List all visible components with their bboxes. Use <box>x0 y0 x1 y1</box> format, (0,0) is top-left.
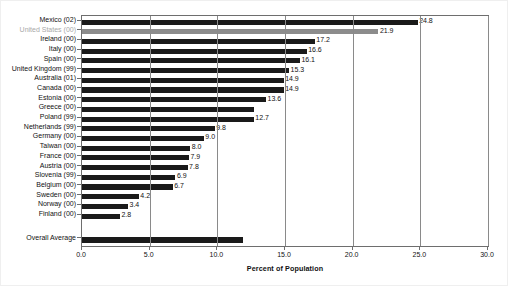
bar <box>82 184 173 189</box>
gridline <box>488 16 489 246</box>
category-label: Spain (00) <box>44 54 76 64</box>
category-label: Norway (00) <box>38 199 76 209</box>
bar-value-label: 7.9 <box>189 152 200 161</box>
bar <box>82 155 189 160</box>
gridline <box>217 16 218 246</box>
bar <box>82 214 120 219</box>
bar-value-label: 7.8 <box>188 162 199 171</box>
category-label: Mexico (02) <box>39 15 76 25</box>
bar-chart: Mexico (02)United States (00)Ireland (00… <box>0 0 508 286</box>
x-tick-label: 5.0 <box>144 250 154 260</box>
category-label: Canada (00) <box>37 83 76 93</box>
bar <box>82 126 215 131</box>
bar <box>82 194 139 199</box>
x-axis-ticks: 0.05.010.015.020.025.030.0 <box>81 247 489 261</box>
bar <box>82 146 190 151</box>
bar-value-label: 9.0 <box>204 132 215 141</box>
bar <box>82 87 284 92</box>
category-label: Finland (00) <box>39 209 76 219</box>
x-tick-label: 30.0 <box>480 250 494 260</box>
gridline <box>150 16 151 246</box>
category-label: France (00) <box>40 151 76 161</box>
x-tick-label: 15.0 <box>277 250 291 260</box>
x-axis-title: Percent of Population <box>81 264 489 273</box>
bar <box>82 107 254 112</box>
bar <box>82 117 254 122</box>
bar-value-label: 21.9 <box>378 26 393 35</box>
bar-value-label: 17.2 <box>315 35 330 44</box>
category-label: Slovenia (99) <box>35 170 76 180</box>
category-label: United States (00) <box>20 25 76 35</box>
bar-value-label: 3.4 <box>128 200 139 209</box>
bar <box>82 97 266 102</box>
category-label: Overall Average <box>26 233 76 243</box>
gridline <box>285 16 286 246</box>
category-label: Austria (00) <box>40 161 76 171</box>
category-label: Ireland (00) <box>40 34 76 44</box>
category-label: Poland (99) <box>40 112 76 122</box>
category-label: Italy (00) <box>49 44 76 54</box>
bar-value-label: 6.9 <box>175 171 186 180</box>
bar <box>82 58 300 63</box>
category-label: Belgium (00) <box>36 180 76 190</box>
bar-value-label: 16.1 <box>300 55 315 64</box>
category-axis-labels: Mexico (02)United States (00)Ireland (00… <box>1 15 79 247</box>
gridline <box>420 16 421 246</box>
bar <box>82 39 315 44</box>
bar-value-label: 9.8 <box>215 123 226 132</box>
bar-value-label: 2.8 <box>120 210 131 219</box>
bar-value-label: 8.0 <box>190 142 201 151</box>
bar <box>82 136 204 141</box>
bar <box>82 49 307 54</box>
bar <box>82 29 378 34</box>
plot-area: 24.821.917.216.616.115.314.914.913.612.7… <box>81 15 489 247</box>
x-tick-label: 0.0 <box>76 250 86 260</box>
bar-value-label: 6.7 <box>173 181 184 190</box>
bar <box>82 204 128 209</box>
bar <box>82 237 243 243</box>
category-label: Greece (00) <box>39 102 76 112</box>
category-label: Australia (01) <box>34 73 76 83</box>
x-tick-label: 20.0 <box>345 250 359 260</box>
bar <box>82 175 175 180</box>
category-label: Sweden (00) <box>36 190 76 200</box>
bar <box>82 20 418 25</box>
x-tick-label: 10.0 <box>210 250 224 260</box>
bar-value-label: 15.3 <box>289 65 304 74</box>
bar-value-label: 13.6 <box>266 94 281 103</box>
bar <box>82 165 188 170</box>
category-label: Netherlands (99) <box>24 122 76 132</box>
bar <box>82 68 289 73</box>
bar <box>82 78 284 83</box>
category-label: United Kingdom (99) <box>12 64 76 74</box>
gridline <box>353 16 354 246</box>
category-label: Estonia (00) <box>38 93 76 103</box>
bar-value-label: 16.6 <box>307 45 322 54</box>
bar-value-label: 4.2 <box>139 191 150 200</box>
x-tick-label: 25.0 <box>413 250 427 260</box>
bar-value-label: 12.7 <box>254 113 269 122</box>
category-label: Germany (00) <box>33 131 76 141</box>
category-label: Taiwan (00) <box>40 141 76 151</box>
